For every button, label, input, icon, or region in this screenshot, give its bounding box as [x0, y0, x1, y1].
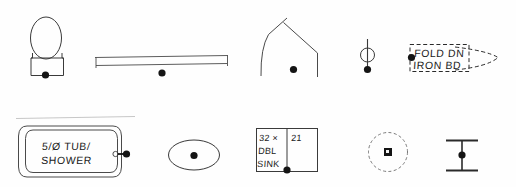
plan-legend-sheet: FOLD DN IRON BD 5/Ø TUB/ SHOWER 32 × 21 …: [0, 0, 516, 187]
tub-shower-symbol: 5/Ø TUB/ SHOWER: [19, 126, 131, 177]
node-dot: [290, 66, 297, 73]
node-dot: [283, 166, 290, 173]
node-dot: [458, 151, 465, 158]
toilet-symbol: [31, 17, 64, 79]
oval-lavatory-symbol: [169, 140, 220, 170]
ironing-board-label-line1: FOLD DN: [414, 47, 465, 59]
node-dot: [123, 150, 130, 157]
node-dot: [190, 152, 197, 159]
sink-depth-label: 21: [291, 133, 302, 143]
node-dot: [42, 71, 49, 78]
ironing-board-label-line2: IRON BD: [413, 59, 462, 71]
node-dot: [158, 69, 165, 76]
sink-label-line3: SINK: [257, 159, 280, 169]
tub-label-line2: SHOWER: [41, 154, 93, 166]
node-dot: [364, 66, 371, 73]
fold-down-ironing-board-symbol: FOLD DN IRON BD: [408, 45, 498, 72]
pipe-riser-symbol: [361, 39, 375, 73]
corner-shower-symbol: [261, 18, 318, 77]
sink-size-label: 32 ×: [259, 133, 279, 143]
guide-line: [16, 117, 135, 119]
tub-label-line1: 5/Ø TUB/: [42, 140, 91, 152]
sink-label-line2: DBL: [258, 146, 277, 156]
double-sink-symbol: 32 × 21 DBL SINK: [257, 129, 318, 174]
column-beam-symbol: [446, 141, 478, 171]
ceiling-fixture-symbol: [369, 133, 408, 172]
counter-shelf-symbol: [95, 56, 228, 77]
